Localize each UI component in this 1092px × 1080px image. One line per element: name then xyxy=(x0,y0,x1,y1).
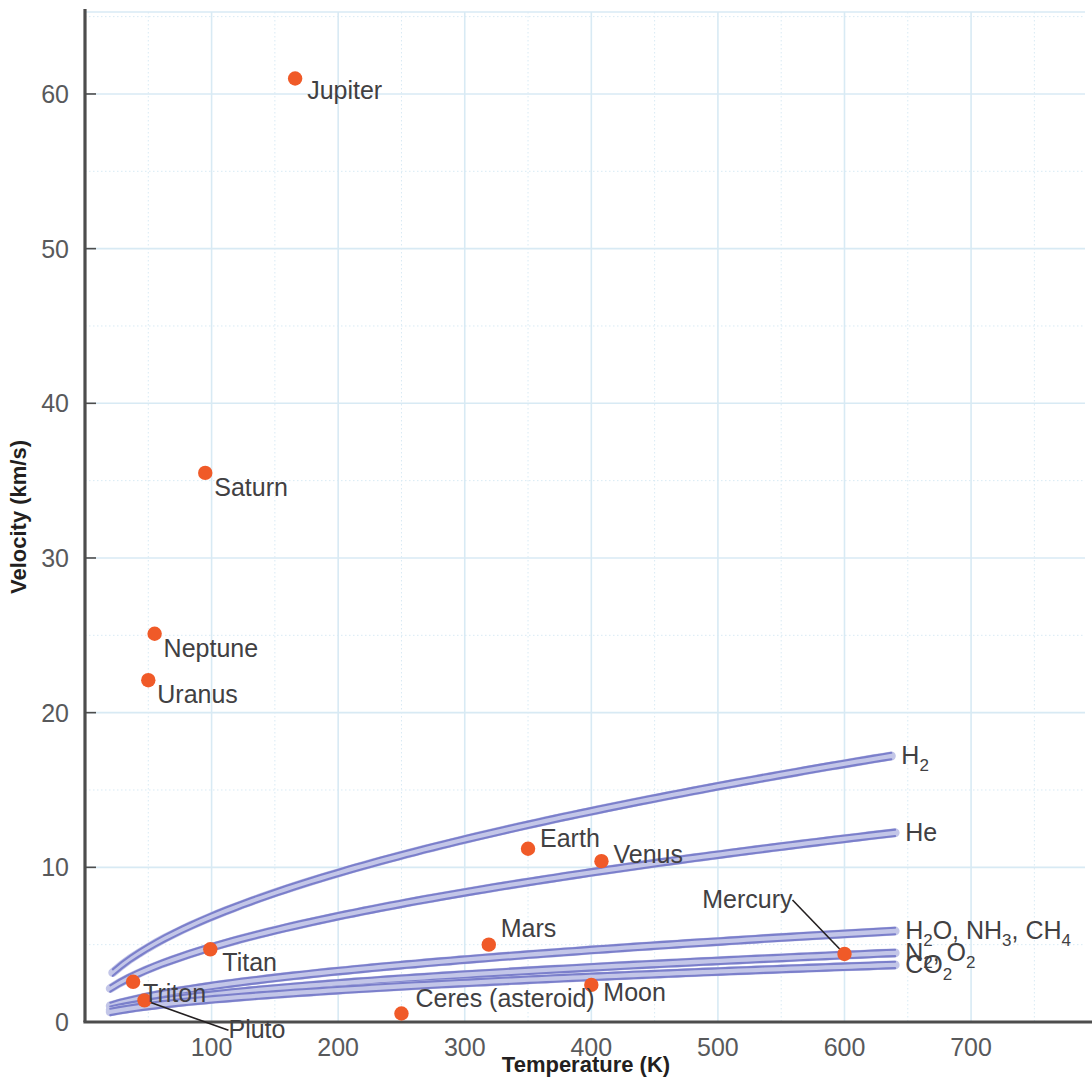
chart-canvas: JupiterSaturnNeptuneUranusEarthVenusMars… xyxy=(0,0,1092,1080)
x-tick-label: 300 xyxy=(444,1033,486,1061)
leader-line-mercury xyxy=(792,900,844,954)
point-label-pluto: Pluto xyxy=(228,1015,285,1043)
point-label-moon: Moon xyxy=(603,978,666,1006)
data-point-ceres-asteroid[interactable] xyxy=(394,1006,408,1020)
data-point-venus[interactable] xyxy=(594,854,608,868)
point-label-titan: Titan xyxy=(222,948,277,976)
data-point-saturn[interactable] xyxy=(198,466,212,480)
x-tick-label: 700 xyxy=(950,1033,992,1061)
escape-velocity-chart: JupiterSaturnNeptuneUranusEarthVenusMars… xyxy=(0,0,1092,1080)
point-label-earth: Earth xyxy=(540,824,600,852)
point-label-triton: Triton xyxy=(143,979,206,1007)
data-point-triton[interactable] xyxy=(126,975,140,989)
data-point-jupiter[interactable] xyxy=(288,71,302,85)
data-point-earth[interactable] xyxy=(521,842,535,856)
y-tick-label: 40 xyxy=(41,389,69,417)
data-point-uranus[interactable] xyxy=(141,673,155,687)
point-label-mars: Mars xyxy=(501,914,557,942)
y-tick-label: 50 xyxy=(41,235,69,263)
curve-labels: H2HeH2O, NH3, CH4N2, O2CO2 xyxy=(901,741,1071,984)
point-label-jupiter: Jupiter xyxy=(307,76,382,104)
point-labels: JupiterSaturnNeptuneUranusEarthVenusMars… xyxy=(143,76,793,1044)
point-label-mercury: Mercury xyxy=(702,885,793,913)
x-tick-label: 600 xyxy=(824,1033,866,1061)
y-tick-label: 10 xyxy=(41,853,69,881)
y-axis-title: Velocity (km/s) xyxy=(6,440,31,594)
x-tick-label: 500 xyxy=(697,1033,739,1061)
x-tick-label: 100 xyxy=(191,1033,233,1061)
point-label-neptune: Neptune xyxy=(164,634,259,662)
data-point-titan[interactable] xyxy=(203,942,217,956)
x-tick-label: 200 xyxy=(317,1033,359,1061)
curve-label-he: He xyxy=(905,818,937,846)
y-tick-label: 30 xyxy=(41,544,69,572)
data-point-neptune[interactable] xyxy=(147,627,161,641)
data-point-mercury[interactable] xyxy=(837,947,851,961)
point-label-saturn: Saturn xyxy=(214,473,288,501)
point-label-venus: Venus xyxy=(613,840,683,868)
point-label-ceres-asteroid: Ceres (asteroid) xyxy=(415,984,594,1012)
curve-label-h2: H2 xyxy=(901,741,929,775)
y-tick-label: 60 xyxy=(41,80,69,108)
point-label-uranus: Uranus xyxy=(157,680,238,708)
data-point-mars[interactable] xyxy=(482,937,496,951)
y-tick-label: 20 xyxy=(41,699,69,727)
x-axis-title: Temperature (K) xyxy=(502,1052,670,1077)
data-points xyxy=(126,71,852,1020)
y-tick-label: 0 xyxy=(55,1008,69,1036)
